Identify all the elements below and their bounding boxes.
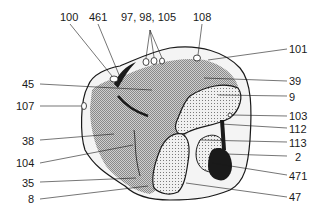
label-2: 2 bbox=[295, 151, 301, 163]
circle-107 bbox=[82, 103, 87, 110]
label-103: 103 bbox=[289, 110, 307, 122]
label-9: 9 bbox=[289, 91, 295, 103]
label-112: 112 bbox=[289, 123, 307, 135]
circle-105 bbox=[160, 58, 165, 64]
label-39: 39 bbox=[289, 75, 301, 87]
label-471: 471 bbox=[289, 170, 307, 182]
label-107: 107 bbox=[16, 100, 34, 112]
label-101: 101 bbox=[289, 43, 307, 55]
circle-97 bbox=[143, 59, 149, 66]
anatomical-diagram: 100 461 97, 98, 105 108 45 107 38 104 35… bbox=[0, 0, 319, 224]
label-113: 113 bbox=[289, 137, 307, 149]
label-47: 47 bbox=[289, 191, 301, 203]
label-38: 38 bbox=[22, 135, 34, 147]
label-461: 461 bbox=[89, 11, 107, 23]
label-45: 45 bbox=[22, 78, 34, 90]
circle-98 bbox=[151, 58, 157, 65]
label-100: 100 bbox=[60, 11, 78, 23]
diagram-drawing bbox=[0, 0, 319, 224]
label-35: 35 bbox=[22, 177, 34, 189]
label-8: 8 bbox=[28, 193, 34, 205]
circle-103 bbox=[228, 113, 232, 117]
circle-108 bbox=[194, 55, 201, 61]
label-108: 108 bbox=[193, 11, 211, 23]
label-104: 104 bbox=[16, 157, 34, 169]
label-97-98-105: 97, 98, 105 bbox=[121, 11, 176, 23]
circle-100 bbox=[110, 76, 118, 82]
